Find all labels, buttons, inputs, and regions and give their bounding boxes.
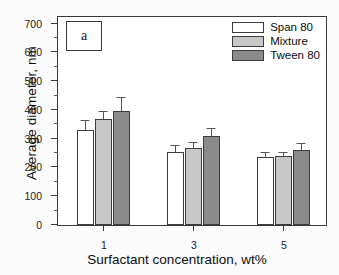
x-tick-3: 3 — [193, 225, 194, 231]
bar-mixture-3 — [185, 148, 202, 225]
y-minor-tick-150 — [54, 181, 58, 182]
legend-swatch-span — [232, 22, 264, 33]
error-bar-span-1 — [85, 121, 86, 129]
y-minor-tick-50 — [54, 210, 58, 211]
legend-item-mixture: Mixture — [232, 35, 320, 47]
error-cap-span-1 — [81, 120, 90, 121]
y-minor-tick-350 — [54, 123, 58, 124]
y-tick-500: 500 — [51, 80, 58, 81]
x-tick-label-3: 3 — [191, 239, 197, 251]
bar-tween-5 — [293, 150, 310, 225]
legend-item-tween: Tween 80 — [232, 49, 320, 61]
error-cap-tween-5 — [297, 143, 306, 144]
error-cap-tween-1 — [117, 97, 126, 98]
y-tick-label-300: 300 — [24, 133, 42, 145]
y-minor-tick-650 — [54, 37, 58, 38]
error-bar-span-3 — [175, 146, 176, 152]
error-bar-tween-5 — [301, 144, 302, 150]
y-tick-label-400: 400 — [24, 104, 42, 116]
x-tick-5: 5 — [283, 225, 284, 231]
y-minor-tick-550 — [54, 66, 58, 67]
x-tick-label-1: 1 — [101, 239, 107, 251]
y-tick-label-700: 700 — [24, 18, 42, 30]
legend-label-tween: Tween 80 — [270, 49, 320, 61]
x-axis-title: Surfactant concentration, wt% — [22, 252, 332, 267]
chart-legend: Span 80MixtureTween 80 — [232, 21, 320, 61]
y-minor-tick-450 — [54, 95, 58, 96]
error-cap-mixture-5 — [279, 152, 288, 153]
bar-mixture-5 — [275, 156, 292, 225]
legend-label-mixture: Mixture — [270, 35, 308, 47]
y-tick-label-500: 500 — [24, 75, 42, 87]
legend-item-span: Span 80 — [232, 21, 320, 33]
y-tick-200: 200 — [51, 166, 58, 167]
legend-swatch-mixture — [232, 36, 264, 47]
bar-span-1 — [77, 130, 94, 226]
panel-label: a — [66, 21, 102, 51]
bar-tween-3 — [203, 136, 220, 225]
error-cap-span-5 — [261, 152, 270, 153]
y-tick-label-0: 0 — [36, 219, 42, 231]
error-bar-mixture-1 — [103, 112, 104, 118]
y-tick-700: 700 — [51, 23, 58, 24]
bar-span-3 — [167, 152, 184, 225]
error-cap-mixture-1 — [99, 111, 108, 112]
plot-area: 0100200300400500600700 135 a Span 80Mixt… — [57, 16, 327, 226]
error-bar-mixture-5 — [283, 153, 284, 156]
chart-figure: Average diameter, nm 0100200300400500600… — [0, 0, 339, 275]
y-tick-0: 0 — [51, 224, 58, 225]
y-tick-label-200: 200 — [24, 161, 42, 173]
y-tick-label-100: 100 — [24, 190, 42, 202]
y-tick-300: 300 — [51, 138, 58, 139]
x-tick-label-5: 5 — [281, 239, 287, 251]
bar-mixture-1 — [95, 119, 112, 225]
error-cap-mixture-3 — [189, 142, 198, 143]
y-tick-600: 600 — [51, 51, 58, 52]
y-tick-label-600: 600 — [24, 46, 42, 58]
legend-label-span: Span 80 — [270, 21, 313, 33]
error-bar-mixture-3 — [193, 143, 194, 147]
error-cap-tween-3 — [207, 128, 216, 129]
error-bar-span-5 — [265, 153, 266, 157]
y-minor-tick-250 — [54, 152, 58, 153]
error-bar-tween-1 — [121, 98, 122, 111]
y-tick-100: 100 — [51, 195, 58, 196]
bar-span-5 — [257, 157, 274, 225]
bar-tween-1 — [113, 111, 130, 225]
error-cap-span-3 — [171, 145, 180, 146]
legend-swatch-tween — [232, 50, 264, 61]
x-tick-1: 1 — [103, 225, 104, 231]
y-tick-400: 400 — [51, 109, 58, 110]
error-bar-tween-3 — [211, 129, 212, 136]
